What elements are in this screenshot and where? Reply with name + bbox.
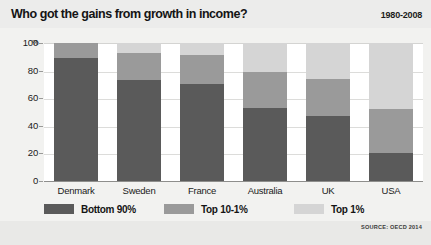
y-axis-tick-mark xyxy=(39,181,43,182)
y-axis-unit-label: % xyxy=(32,38,39,47)
y-axis-tick-mark xyxy=(39,43,43,44)
legend-label: Bottom 90% xyxy=(81,204,136,215)
x-axis-category-label: USA xyxy=(360,185,422,196)
legend-color-swatch xyxy=(44,204,74,214)
page-title: Who got the gains from growth in income? xyxy=(11,7,247,21)
y-axis-tick-label: 20 xyxy=(4,147,38,158)
x-axis-category-label: UK xyxy=(297,185,359,196)
x-axis-category-label: France xyxy=(171,185,233,196)
y-axis-tick-mark xyxy=(39,71,43,72)
y-axis-tick-label: 0 xyxy=(4,175,38,186)
bar-segment xyxy=(117,80,161,181)
y-axis-tick-label: 60 xyxy=(4,92,38,103)
date-range-label: 1980-2008 xyxy=(381,10,422,20)
legend-color-swatch xyxy=(164,204,194,214)
bar-segment xyxy=(243,108,287,181)
gridline xyxy=(44,72,423,73)
legend-label: Top 10-1% xyxy=(201,204,248,215)
gridline xyxy=(44,154,423,155)
bar-segment xyxy=(54,58,98,181)
bar-segment xyxy=(369,153,413,181)
chart-figure: Who got the gains from growth in income?… xyxy=(0,0,431,245)
legend: Bottom 90%Top 10-1%Top 1% xyxy=(0,202,431,218)
source-note: SOURCE: OECD 2014 xyxy=(361,224,422,230)
bar-segment xyxy=(306,43,350,79)
plot-area xyxy=(44,43,423,182)
bar-segment xyxy=(306,79,350,116)
x-axis-line xyxy=(44,181,423,182)
legend-item[interactable]: Top 1% xyxy=(294,202,364,216)
legend-item[interactable]: Bottom 90% xyxy=(44,202,136,216)
x-axis-category-label: Sweden xyxy=(108,185,170,196)
y-axis-tick-label: 80 xyxy=(4,65,38,76)
bar-segment xyxy=(243,72,287,108)
bar-segment xyxy=(180,43,224,55)
bar-segment xyxy=(54,43,98,58)
x-axis-category-label: Denmark xyxy=(45,185,107,196)
gridline xyxy=(44,99,423,100)
bar-segment xyxy=(306,116,350,181)
legend-label: Top 1% xyxy=(331,204,364,215)
y-axis-tick-mark xyxy=(39,153,43,154)
x-axis-category-label: Australia xyxy=(234,185,296,196)
bar-segment xyxy=(117,53,161,81)
bar-segment xyxy=(243,43,287,72)
y-axis-tick-mark xyxy=(39,126,43,127)
y-axis-tick-label: 40 xyxy=(4,120,38,131)
bar-segment xyxy=(369,43,413,109)
y-axis-tick-mark xyxy=(39,98,43,99)
bar-segment xyxy=(117,43,161,53)
bar-segment xyxy=(369,109,413,153)
bar-segment xyxy=(180,55,224,84)
legend-item[interactable]: Top 10-1% xyxy=(164,202,248,216)
legend-color-swatch xyxy=(294,204,324,214)
bar-segment xyxy=(180,84,224,181)
gridline xyxy=(44,127,423,128)
